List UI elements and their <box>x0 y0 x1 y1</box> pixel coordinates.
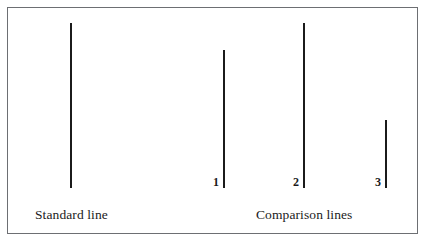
comparison-line-3 <box>385 120 387 188</box>
standard-line-caption: Standard line <box>35 208 108 222</box>
figure-frame <box>7 7 418 234</box>
comparison-line-2 <box>303 23 305 188</box>
comparison-lines-caption: Comparison lines <box>256 208 352 222</box>
standard-line <box>70 23 72 188</box>
comparison-line-1 <box>223 50 225 188</box>
asch-line-figure: Standard line 1 2 3 Comparison lines <box>0 0 426 242</box>
comparison-line-1-label: 1 <box>205 176 219 188</box>
comparison-line-2-label: 2 <box>285 176 299 188</box>
comparison-line-3-label: 3 <box>367 176 381 188</box>
